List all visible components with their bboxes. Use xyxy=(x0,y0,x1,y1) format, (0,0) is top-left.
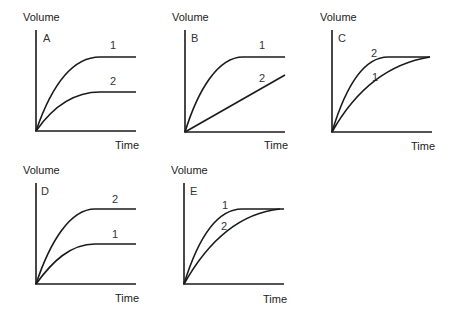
panel-e-plot xyxy=(0,0,452,316)
curve-1 xyxy=(184,209,284,284)
